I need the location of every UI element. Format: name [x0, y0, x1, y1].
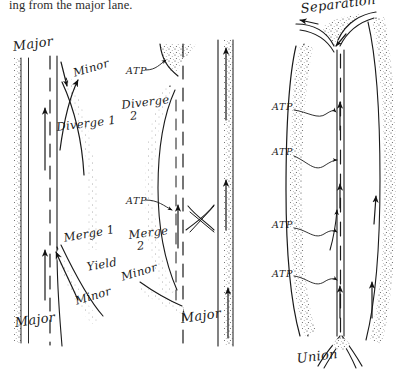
label-atp-middle-middle: ATP [126, 196, 147, 206]
label-merge-2: Merge 2 [128, 225, 170, 253]
figure-page: ing from the major lane. [0, 0, 412, 372]
panel-right-graphics [286, 12, 396, 368]
label-atp-2: ATP [272, 147, 293, 157]
label-atp-1: ATP [272, 102, 293, 112]
label-atp-3: ATP [272, 220, 293, 230]
label-atp-4: ATP [272, 269, 293, 279]
label-atp-top-middle: ATP [126, 66, 147, 76]
panel-middle-graphics [138, 40, 233, 346]
